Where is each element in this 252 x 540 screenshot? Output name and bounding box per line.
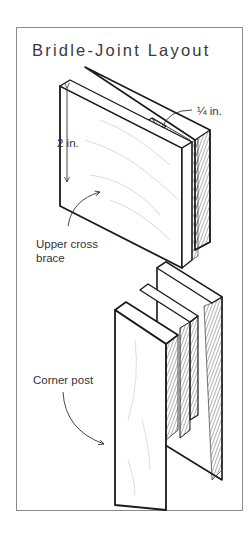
brace-height-label: 2 in. [57, 136, 79, 150]
bridle-joint-illustration [0, 0, 252, 540]
upper-brace-label-line1: Upper cross [36, 237, 98, 251]
corner-post [115, 262, 222, 510]
corner-post-label: Corner post [33, 373, 93, 387]
slot-width-label: ¼ in. [197, 104, 222, 118]
upper-brace-label-line2: brace [36, 251, 65, 265]
corner-post-leader [63, 392, 104, 444]
